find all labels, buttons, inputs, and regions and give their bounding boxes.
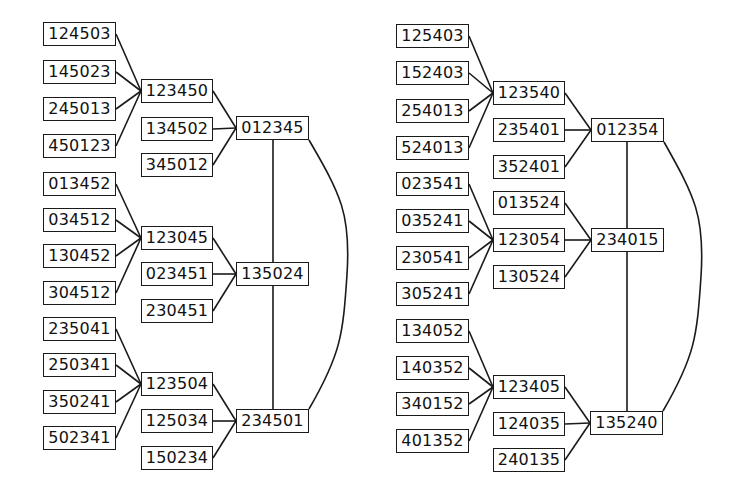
mid-edge [213, 238, 236, 274]
mid-node: 230451 [141, 299, 213, 323]
mid-node: 130524 [493, 265, 565, 289]
hub-node: 135024 [236, 262, 309, 286]
leaf-node: 340152 [396, 392, 469, 416]
mid-node: 345012 [141, 153, 213, 177]
mid-edge [213, 128, 236, 129]
mid-edge [213, 421, 236, 458]
hub-node: 234501 [236, 409, 309, 433]
mid-edge [213, 128, 236, 165]
leaf-node: 250341 [43, 353, 116, 377]
mid-node: 123405 [493, 375, 565, 399]
mid-node: 123450 [141, 79, 213, 103]
mid-node: 240135 [493, 448, 565, 472]
mid-edge [565, 423, 590, 424]
leaf-node: 230541 [396, 246, 469, 270]
permutation-graph-diagram: 1245031450232450134501230134520345121304… [0, 0, 729, 504]
leaf-node: 140352 [396, 356, 469, 380]
mid-node: 134502 [141, 117, 213, 141]
leaf-node: 304512 [43, 281, 116, 305]
mid-edge [565, 203, 591, 240]
mid-edge [213, 384, 236, 421]
leaf-edge [469, 184, 493, 240]
mid-edge [565, 423, 590, 460]
hub-node: 012354 [591, 118, 664, 142]
mid-edge [565, 130, 591, 167]
leaf-node: 235041 [43, 317, 116, 341]
leaf-node: 023541 [396, 172, 469, 196]
mid-edge [565, 387, 590, 423]
leaf-node: 145023 [43, 60, 116, 84]
arc-edge [663, 142, 702, 411]
leaf-node: 034512 [43, 208, 116, 232]
leaf-node: 130452 [43, 244, 116, 268]
mid-node: 150234 [141, 446, 213, 470]
mid-node: 123045 [141, 226, 213, 250]
leaf-node: 350241 [43, 390, 116, 414]
mid-node: 123504 [141, 372, 213, 396]
mid-node: 352401 [493, 155, 565, 179]
mid-edge [213, 91, 236, 128]
leaf-node: 524013 [396, 136, 469, 160]
leaf-node: 254013 [396, 99, 469, 123]
leaf-node: 152403 [396, 61, 469, 85]
arc-edge [309, 140, 348, 409]
leaf-edge [469, 36, 493, 93]
leaf-node: 134052 [396, 319, 469, 343]
mid-node: 023451 [141, 262, 213, 286]
hub-node: 135240 [590, 411, 663, 435]
leaf-node: 502341 [43, 426, 116, 450]
mid-edge [213, 274, 236, 311]
mid-edge [565, 93, 591, 130]
leaf-edge [116, 329, 141, 384]
mid-node: 123540 [493, 81, 565, 105]
leaf-node: 401352 [396, 429, 469, 453]
mid-node: 125034 [141, 409, 213, 433]
leaf-node: 125403 [396, 24, 469, 48]
leaf-edge [469, 331, 493, 387]
leaf-node: 305241 [396, 282, 469, 306]
leaf-node: 124503 [43, 22, 116, 46]
hub-node: 012345 [236, 116, 309, 140]
leaf-node: 035241 [396, 209, 469, 233]
mid-node: 013524 [493, 191, 565, 215]
hub-node: 234015 [591, 228, 664, 252]
mid-node: 123054 [493, 228, 565, 252]
mid-node: 124035 [493, 412, 565, 436]
mid-node: 235401 [493, 118, 565, 142]
mid-edge [565, 240, 591, 277]
leaf-node: 245013 [43, 97, 116, 121]
leaf-node: 013452 [43, 172, 116, 196]
leaf-node: 450123 [43, 134, 116, 158]
